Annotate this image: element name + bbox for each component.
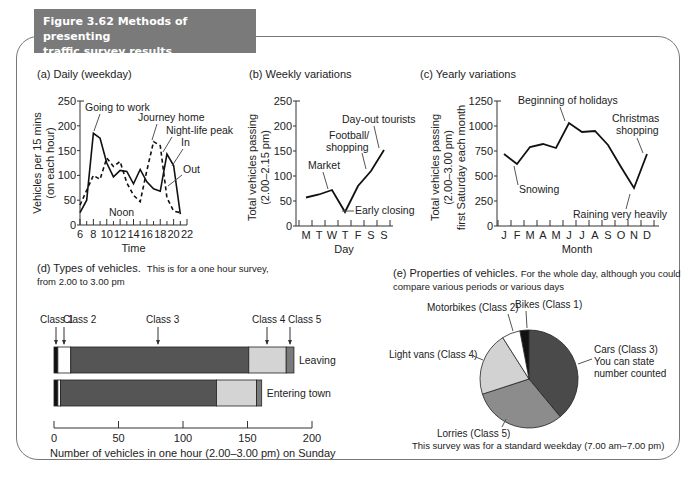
label-lorries: Lorries (Class 5) bbox=[437, 428, 510, 439]
figure-title-line2: traffic survey results bbox=[43, 44, 247, 59]
label-light-vans: Light vans (Class 4) bbox=[389, 349, 477, 360]
annotation-number-counted: number counted bbox=[594, 368, 666, 379]
panel-e-footnote: This survey was for a standard weekday (… bbox=[412, 440, 664, 451]
annotation-you-can-state: You can state bbox=[594, 356, 655, 367]
label-motorbikes: Motorbikes (Class 2) bbox=[427, 302, 519, 313]
label-bikes: Bikes (Class 1) bbox=[515, 299, 582, 310]
figure-title-line1: Figure 3.62 Methods of presenting bbox=[43, 14, 247, 44]
figure-header: Figure 3.62 Methods of presenting traffi… bbox=[34, 9, 256, 53]
label-cars: Cars (Class 3) bbox=[594, 344, 658, 355]
chart-vehicle-properties-pie: Bikes (Class 1)Motorbikes (Class 2)Light… bbox=[0, 0, 688, 481]
